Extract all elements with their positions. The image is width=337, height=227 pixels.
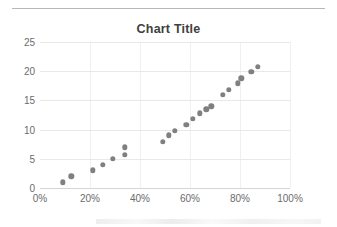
y-axis-tick-label: 15 (5, 95, 35, 106)
plot-area[interactable]: 05101520250%20%40%60%80%100% (40, 42, 290, 188)
y-axis-tick-label: 25 (5, 37, 35, 48)
data-point[interactable] (220, 92, 225, 97)
x-axis-tick-label: 80% (230, 193, 250, 204)
data-point[interactable] (122, 144, 127, 149)
y-gridline (40, 42, 290, 43)
data-point[interactable] (160, 139, 165, 144)
data-point[interactable] (69, 174, 74, 179)
screenshot-root: Chart Title 05101520250%20%40%60%80%100% (0, 0, 337, 227)
x-gridline (140, 42, 141, 188)
data-point[interactable] (90, 168, 95, 173)
y-axis-tick-label: 0 (5, 183, 35, 194)
data-point[interactable] (100, 162, 105, 167)
y-axis-tick-label: 20 (5, 66, 35, 77)
data-point[interactable] (110, 156, 115, 161)
x-axis-line (40, 188, 290, 189)
x-gridline (240, 42, 241, 188)
y-axis-tick-label: 10 (5, 124, 35, 135)
y-gridline (40, 159, 290, 160)
data-point[interactable] (122, 152, 127, 157)
chart-container[interactable]: Chart Title 05101520250%20%40%60%80%100% (0, 12, 337, 212)
y-axis-tick-label: 5 (5, 153, 35, 164)
x-axis-tick-label: 60% (180, 193, 200, 204)
data-point[interactable] (166, 133, 171, 138)
x-gridline (290, 42, 291, 188)
header-divider (12, 8, 325, 9)
x-gridline (90, 42, 91, 188)
x-axis-tick-label: 40% (130, 193, 150, 204)
data-point[interactable] (190, 116, 195, 121)
chart-title[interactable]: Chart Title (0, 22, 337, 36)
data-point[interactable] (197, 111, 202, 116)
x-axis-tick-label: 100% (277, 193, 303, 204)
data-point[interactable] (255, 64, 260, 69)
data-point[interactable] (172, 128, 177, 133)
x-axis-tick-label: 0% (33, 193, 47, 204)
cropped-caption-text (96, 219, 321, 224)
x-axis-tick-label: 20% (80, 193, 100, 204)
data-point[interactable] (249, 69, 254, 74)
data-point[interactable] (239, 76, 244, 81)
data-point[interactable] (60, 179, 65, 184)
data-point[interactable] (226, 87, 231, 92)
data-point[interactable] (209, 104, 214, 109)
data-point[interactable] (184, 122, 189, 127)
y-gridline (40, 130, 290, 131)
y-gridline (40, 100, 290, 101)
